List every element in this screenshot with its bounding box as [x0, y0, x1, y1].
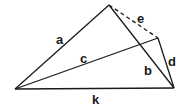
label-d: d — [168, 54, 176, 69]
label-b: b — [144, 63, 152, 78]
label-k: k — [92, 92, 100, 107]
label-c: c — [80, 51, 87, 66]
geometry-diagram: a b c d e k — [0, 0, 186, 109]
edge-k — [15, 88, 174, 89]
edge-a — [15, 5, 109, 89]
label-e: e — [137, 11, 144, 26]
edge-e — [109, 5, 158, 38]
label-a: a — [56, 32, 64, 47]
